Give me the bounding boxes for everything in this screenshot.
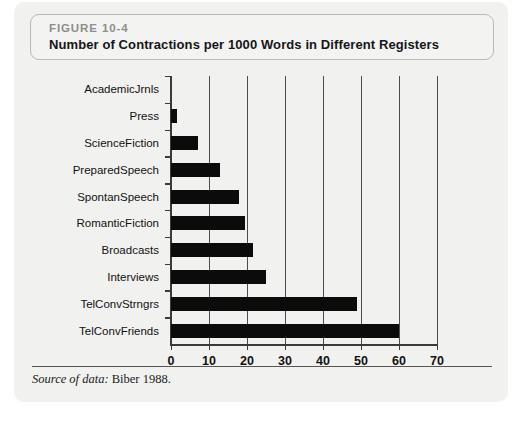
x-tick-60	[399, 344, 400, 350]
gridline-70	[437, 76, 438, 344]
y-label-TelConvFriends: TelConvFriends	[79, 325, 159, 337]
y-tick-Interviews	[165, 264, 171, 265]
x-tick-20	[247, 344, 248, 350]
figure-caption-box: FIGURE 10-4 Number of Contractions per 1…	[30, 14, 494, 60]
gridline-60	[399, 76, 400, 344]
x-tick-30	[285, 344, 286, 350]
y-tick-SpontanSpeech	[165, 183, 171, 184]
y-label-Press: Press	[130, 110, 159, 122]
bar-chart: 010203040506070 AcademicJrnlsPressScienc…	[36, 70, 476, 360]
y-label-RomanticFiction: RomanticFiction	[77, 217, 159, 229]
y-label-ScienceFiction: ScienceFiction	[84, 137, 159, 149]
y-tick-RomanticFiction	[165, 210, 171, 211]
source-divider	[32, 366, 492, 367]
bar-TelConvFriends	[171, 324, 399, 338]
y-tick-TelConvStrngrs	[165, 290, 171, 291]
x-tick-70	[437, 344, 438, 350]
figure-title: Number of Contractions per 1000 Words in…	[49, 36, 493, 53]
y-tick-TelConvFriends	[165, 317, 171, 318]
y-label-TelConvStrngrs: TelConvStrngrs	[80, 298, 159, 310]
bar-Press	[171, 109, 177, 123]
y-label-Broadcasts: Broadcasts	[101, 244, 159, 256]
source-note-label: Source of data:	[32, 372, 109, 386]
bar-ScienceFiction	[171, 136, 198, 150]
y-tick-PreparedSpeech	[165, 156, 171, 157]
bar-RomanticFiction	[171, 216, 245, 230]
bar-SpontanSpeech	[171, 190, 239, 204]
x-tick-50	[361, 344, 362, 350]
y-label-AcademicJrnls: AcademicJrnls	[84, 83, 159, 95]
gridline-50	[361, 76, 362, 344]
y-label-SpontanSpeech: SpontanSpeech	[77, 191, 159, 203]
x-tick-40	[323, 344, 324, 350]
bar-Interviews	[171, 270, 266, 284]
source-note-value: Biber 1988.	[112, 372, 171, 386]
bar-Broadcasts	[171, 243, 253, 257]
source-note: Source of data: Biber 1988.	[32, 372, 171, 387]
x-tick-0	[171, 344, 172, 350]
y-label-Interviews: Interviews	[107, 271, 159, 283]
y-label-PreparedSpeech: PreparedSpeech	[73, 164, 159, 176]
figure-page: FIGURE 10-4 Number of Contractions per 1…	[0, 0, 522, 421]
x-tick-10	[209, 344, 210, 350]
y-tick-Press	[165, 103, 171, 104]
bar-PreparedSpeech	[171, 163, 220, 177]
y-tick-AcademicJrnls	[165, 76, 171, 77]
y-tick-Broadcasts	[165, 237, 171, 238]
y-tick-ScienceFiction	[165, 130, 171, 131]
plot-area: 010203040506070 AcademicJrnlsPressScienc…	[171, 76, 437, 344]
bar-TelConvStrngrs	[171, 297, 357, 311]
figure-number-label: FIGURE 10-4	[49, 21, 493, 35]
